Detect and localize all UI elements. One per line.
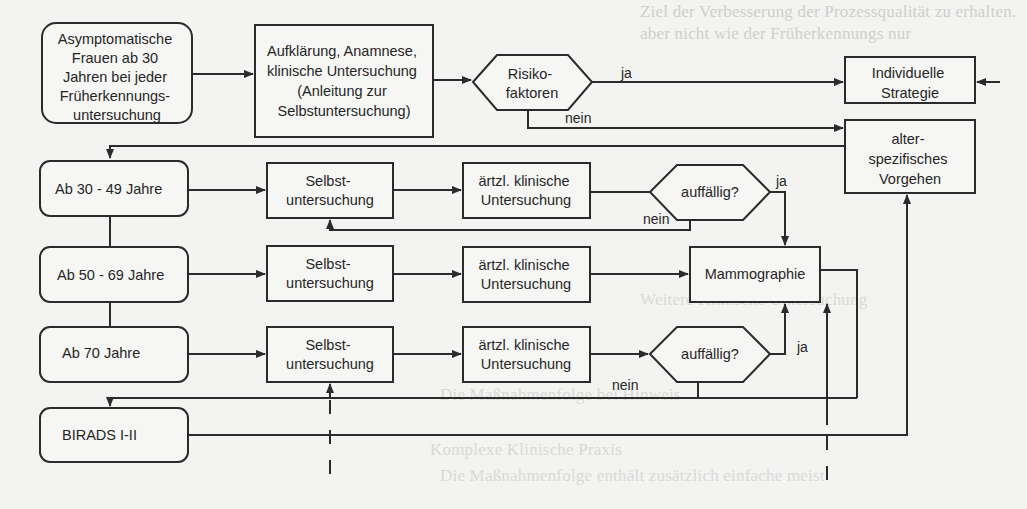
node-individuelle-strategie: Individuelle Strategie bbox=[845, 57, 975, 103]
node-risikofaktoren: Risiko- faktoren bbox=[473, 55, 592, 110]
node-age-30-49: Ab 30 - 49 Jahre bbox=[40, 161, 188, 216]
node-birads: BIRADS I-II bbox=[40, 408, 188, 462]
node-age-50-69: Ab 50 - 69 Jahre bbox=[40, 247, 188, 302]
node-selbstuntersuchung-3: Selbst- untersuchung bbox=[267, 327, 393, 382]
svg-text:Mammographie: Mammographie bbox=[705, 266, 806, 282]
svg-text:Ab 50 - 69 Jahre: Ab 50 - 69 Jahre bbox=[57, 267, 164, 283]
node-age-70: Ab 70 Jahre bbox=[40, 327, 188, 382]
node-aerztl-untersuchung-2: ärtzl. klinische Untersuchung bbox=[463, 247, 590, 302]
node-selbstuntersuchung-1: Selbst- untersuchung bbox=[267, 163, 393, 218]
node-aerztl-untersuchung-1: ärtzl. klinische Untersuchung bbox=[463, 163, 590, 218]
edge-label-auffaellig1-nein: nein bbox=[643, 211, 669, 227]
node-auffaellig-3: auffällig? bbox=[650, 327, 770, 382]
node-start-text: Asymptomatische Frauen ab 30 Jahren bei … bbox=[58, 31, 176, 123]
edge-label-risiko-ja: ja bbox=[620, 65, 632, 81]
svg-text:auffällig?: auffällig? bbox=[681, 184, 739, 200]
node-aerztl-untersuchung-3: ärtzl. klinische Untersuchung bbox=[463, 327, 590, 382]
node-start: Asymptomatische Frauen ab 30 Jahren bei … bbox=[42, 23, 192, 123]
svg-text:Ab 70 Jahre: Ab 70 Jahre bbox=[62, 345, 140, 361]
edge-label-risiko-nein: nein bbox=[565, 110, 591, 126]
flowchart: Asymptomatische Frauen ab 30 Jahren bei … bbox=[0, 0, 1027, 509]
node-aufklaerung: Aufklärung, Anamnese, klinische Untersuc… bbox=[255, 25, 433, 137]
svg-text:auffällig?: auffällig? bbox=[681, 346, 739, 362]
svg-text:Ab 30 - 49 Jahre: Ab 30 - 49 Jahre bbox=[55, 181, 162, 197]
edge-label-auffaellig1-ja: ja bbox=[775, 173, 787, 189]
node-selbstuntersuchung-2: Selbst- untersuchung bbox=[267, 246, 393, 301]
svg-text:BIRADS I-II: BIRADS I-II bbox=[62, 427, 137, 443]
edge-label-auffaellig3-nein: nein bbox=[612, 377, 638, 393]
node-altersspezifisches-vorgehen: alter- spezifisches Vorgehen bbox=[845, 120, 975, 193]
node-mammographie: Mammographie bbox=[690, 247, 820, 302]
edge-label-auffaellig3-ja: ja bbox=[796, 339, 808, 355]
